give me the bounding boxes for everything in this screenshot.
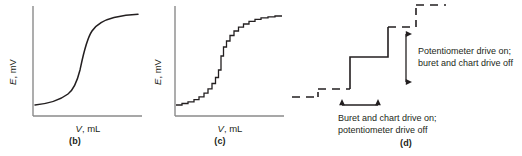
panel-c-chart: E, mV V, mL <box>150 0 290 136</box>
panel-c-step-curve <box>176 16 282 105</box>
panel-c-caption: (c) <box>150 136 290 146</box>
panel-c-y-axis-label: E, mV <box>152 58 163 85</box>
panel-b-x-axis-label: V, mL <box>76 123 101 134</box>
panel-d-annotation-vertical-line1: Potentiometer drive on; <box>418 46 511 56</box>
panel-d-chart: Potentiometer drive on; buret and chart … <box>290 0 522 140</box>
panel-b-y-axis-label: E, mV <box>7 58 18 85</box>
titration-curve-figure: E, mV V, mL (b) E, mV V, mL (c) <box>0 0 522 156</box>
panel-b: E, mV V, mL (b) <box>0 0 150 156</box>
panel-b-caption: (b) <box>0 136 150 146</box>
panel-c: E, mV V, mL (c) <box>150 0 290 156</box>
panel-d-caption: (d) <box>290 138 522 148</box>
panel-d-segment-solid <box>350 27 388 89</box>
panel-d-annotation-vertical-line2: buret and chart drive off <box>418 58 513 68</box>
panel-b-chart: E, mV V, mL <box>0 0 150 136</box>
panel-d-annotation-horizontal-line2: potentiometer drive off <box>338 125 428 135</box>
panel-c-x-axis-label: V, mL <box>218 123 243 134</box>
panel-d-annotation-horizontal-line1: Buret and chart drive on; <box>338 113 437 123</box>
panel-d: Potentiometer drive on; buret and chart … <box>290 0 522 156</box>
panel-b-curve <box>35 14 138 105</box>
